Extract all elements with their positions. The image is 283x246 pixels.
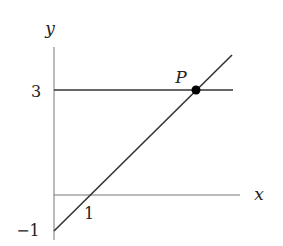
y-tick-label-3: 3 (31, 82, 41, 101)
x-axis-label: x (254, 184, 264, 204)
coordinate-diagram: y x 3 −1 1 P (0, 0, 283, 246)
point-p-label: P (174, 67, 187, 87)
slanted-line (54, 55, 232, 231)
x-tick-label-1: 1 (84, 204, 94, 223)
y-tick-label-minus-1: −1 (16, 221, 40, 240)
point-p (192, 86, 201, 95)
y-axis-label: y (44, 18, 55, 38)
